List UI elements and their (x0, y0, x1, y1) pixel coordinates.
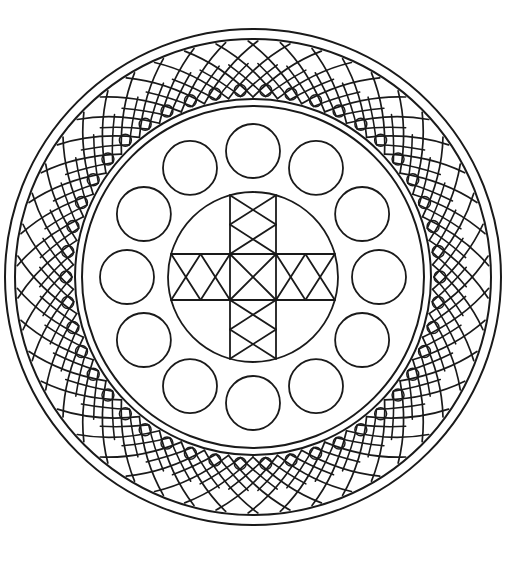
mandala-canvas: Circular Mandala Coloring Page (0, 0, 526, 564)
mandala-drawing: Circular Mandala Coloring Page (0, 0, 526, 564)
